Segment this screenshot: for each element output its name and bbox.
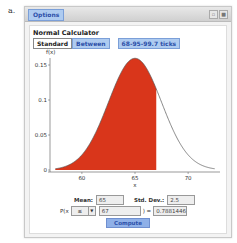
x-axis-label: x: [133, 182, 137, 188]
operator-select[interactable]: ≤ ▼: [71, 206, 96, 216]
calculator-panel: Normal Calculator Standard Between 68-95…: [29, 25, 227, 234]
options-button[interactable]: Options: [28, 9, 64, 21]
restore-icon[interactable]: ▫: [209, 10, 218, 19]
normal-distribution-chart: f(x) 00.050.10.15606570x: [30, 48, 226, 188]
prob-prefix: P(x: [60, 208, 69, 214]
y-tick-label: 0.05: [35, 132, 48, 138]
result-field: 0.7881446: [153, 206, 187, 216]
shaded-probability-area: [55, 58, 156, 170]
x-tick-label: 65: [132, 175, 139, 181]
sd-input[interactable]: 2.5: [167, 195, 195, 205]
x-value-input[interactable]: 67: [99, 206, 141, 216]
mean-input[interactable]: 65: [96, 195, 124, 205]
equals-label: ) =: [143, 208, 152, 214]
y-axis-label: f(x): [46, 49, 55, 55]
y-tick-label: 0.1: [38, 97, 47, 103]
operator-value: ≤: [72, 207, 88, 215]
x-tick-label: 70: [185, 175, 192, 181]
title-bar: Options ▫ ■: [25, 7, 231, 22]
close-icon[interactable]: ■: [219, 10, 228, 19]
y-tick-label: 0.15: [35, 62, 48, 68]
calculator-title: Normal Calculator: [33, 29, 99, 37]
y-tick-label: 0: [44, 167, 48, 173]
x-tick-label: 60: [78, 175, 85, 181]
compute-button[interactable]: Compute: [106, 218, 150, 228]
chevron-down-icon: ▼: [88, 207, 95, 215]
figure-label: a.: [8, 6, 15, 15]
sd-label: Std. Dev.:: [134, 197, 164, 203]
mean-label: Mean:: [74, 197, 93, 203]
calculator-window: Options ▫ ■ Normal Calculator Standard B…: [24, 6, 232, 238]
